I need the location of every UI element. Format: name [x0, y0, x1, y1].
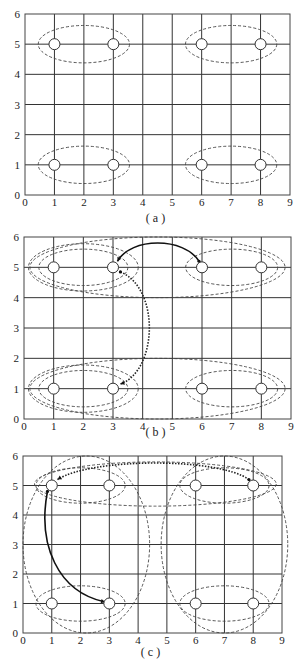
- node-circle: [255, 39, 266, 50]
- x-tick-label: 9: [288, 420, 294, 432]
- y-tick-label: 3: [14, 322, 20, 334]
- x-tick-label: 7: [228, 196, 234, 208]
- panel-caption: ( a ): [146, 211, 165, 225]
- x-tick-label: 2: [78, 634, 84, 646]
- y-tick-label: 6: [14, 231, 20, 243]
- y-tick-label: 2: [15, 129, 21, 141]
- y-tick-label: 5: [13, 480, 19, 492]
- panel-b: 01234567890123456( b ): [14, 231, 295, 439]
- x-tick-label: 8: [258, 196, 264, 208]
- y-tick-label: 0: [14, 413, 20, 425]
- node-circle: [196, 39, 207, 50]
- panel-caption: ( b ): [146, 425, 166, 439]
- x-tick-label: 3: [110, 420, 116, 432]
- node-circle: [48, 383, 59, 394]
- y-tick-label: 1: [15, 159, 21, 171]
- x-tick-label: 3: [111, 196, 117, 208]
- y-tick-label: 1: [13, 598, 19, 610]
- x-tick-label: 1: [49, 634, 55, 646]
- x-tick-label: 7: [222, 634, 228, 646]
- x-tick-label: 8: [259, 420, 265, 432]
- y-tick-label: 3: [15, 99, 21, 111]
- panel-a: 01234567890123456( a ): [15, 8, 294, 225]
- node-circle: [108, 383, 119, 394]
- node-circle: [46, 598, 57, 609]
- x-tick-label: 0: [20, 634, 26, 646]
- dotted-arrow: [58, 463, 249, 480]
- panel-c: 01234567890123456( c ): [13, 450, 288, 659]
- y-tick-label: 1: [14, 383, 20, 395]
- grid: [25, 14, 290, 195]
- x-tick-label: 0: [22, 196, 28, 208]
- node-circle: [108, 262, 119, 273]
- node-circle: [108, 39, 119, 50]
- node-circle: [104, 598, 115, 609]
- x-tick-label: 1: [51, 420, 57, 432]
- x-tick-label: 1: [52, 196, 58, 208]
- clustering-figure: 01234567890123456( a ) 01234567890123456…: [0, 0, 303, 665]
- y-tick-label: 0: [15, 189, 21, 201]
- node-circle: [190, 598, 201, 609]
- node-circle: [104, 480, 115, 491]
- node-circle: [256, 383, 267, 394]
- y-tick-label: 0: [13, 627, 19, 639]
- node-circle: [49, 159, 60, 170]
- x-tick-label: 9: [287, 196, 293, 208]
- node-circle: [197, 383, 208, 394]
- arrowhead-icon: [58, 476, 63, 480]
- node-circle: [248, 480, 259, 491]
- y-tick-label: 4: [14, 292, 20, 304]
- x-tick-label: 6: [199, 420, 205, 432]
- y-tick-label: 3: [13, 539, 19, 551]
- x-tick-label: 0: [21, 420, 27, 432]
- y-tick-label: 4: [13, 509, 19, 521]
- x-tick-label: 5: [169, 196, 175, 208]
- panel-caption: ( c ): [141, 645, 160, 659]
- node-circle: [49, 39, 60, 50]
- y-tick-label: 2: [13, 568, 19, 580]
- x-tick-label: 6: [199, 196, 205, 208]
- arrows: [117, 243, 200, 385]
- node-circle: [248, 598, 259, 609]
- y-tick-label: 2: [14, 352, 20, 364]
- y-tick-label: 5: [15, 38, 21, 50]
- node-circle: [48, 262, 59, 273]
- x-tick-label: 5: [164, 634, 170, 646]
- node-circle: [196, 159, 207, 170]
- x-tick-label: 3: [107, 634, 113, 646]
- y-tick-label: 6: [15, 8, 21, 20]
- x-tick-label: 8: [250, 634, 256, 646]
- arrow-origin-dot: [119, 270, 122, 273]
- solid-arrow: [117, 243, 199, 261]
- grid: [24, 237, 291, 419]
- node-circle: [255, 159, 266, 170]
- node-circle: [256, 262, 267, 273]
- y-tick-label: 6: [13, 450, 19, 462]
- y-tick-label: 4: [15, 68, 21, 80]
- cluster-ellipse: [35, 462, 277, 506]
- node-circle: [108, 159, 119, 170]
- x-tick-label: 9: [279, 634, 285, 646]
- x-tick-label: 5: [170, 420, 176, 432]
- y-tick-label: 5: [14, 261, 20, 273]
- x-tick-label: 7: [229, 420, 235, 432]
- solid-arrow: [45, 491, 105, 602]
- node-circle: [190, 480, 201, 491]
- x-tick-label: 2: [81, 420, 87, 432]
- x-tick-label: 6: [193, 634, 199, 646]
- grid: [23, 456, 282, 633]
- node-circle: [197, 262, 208, 273]
- node-circle: [46, 480, 57, 491]
- x-tick-label: 2: [81, 196, 87, 208]
- x-tick-label: 4: [140, 196, 146, 208]
- arrows: [45, 463, 251, 603]
